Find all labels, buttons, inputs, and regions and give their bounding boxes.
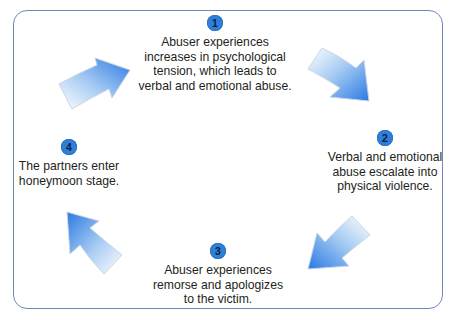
step-3-text: Abuser experiences remorse and apologize… <box>140 263 296 307</box>
step-1-text: Abuser experiences increases in psycholo… <box>130 35 300 93</box>
step-1: 1 Abuser experiences increases in psycho… <box>130 15 300 93</box>
arrow-down-left-icon <box>305 214 373 272</box>
step-2: 2 Verbal and emotional abuse escalate in… <box>322 130 448 194</box>
arrow-down-right-icon <box>305 46 377 104</box>
arrow-up-right-icon <box>57 57 133 112</box>
step-4: 4 The partners enter honeymoon stage. <box>12 139 126 188</box>
step-4-badge: 4 <box>61 139 77 155</box>
step-2-text: Verbal and emotional abuse escalate into… <box>322 150 448 194</box>
step-2-badge: 2 <box>377 130 393 146</box>
arrow-up-left-icon <box>62 209 124 277</box>
step-3: 3 Abuser experiences remorse and apologi… <box>140 243 296 307</box>
step-3-badge: 3 <box>210 243 226 259</box>
step-1-badge: 1 <box>207 15 223 31</box>
step-4-text: The partners enter honeymoon stage. <box>12 159 126 188</box>
